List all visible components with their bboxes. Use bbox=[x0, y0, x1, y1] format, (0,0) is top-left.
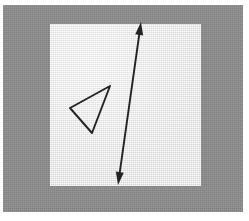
figure-root bbox=[0, 0, 249, 221]
light-drawing-panel bbox=[50, 24, 201, 186]
